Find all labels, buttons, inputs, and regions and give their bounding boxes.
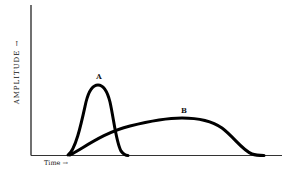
curve-a-label: A (95, 72, 102, 81)
x-axis-label: Time → (44, 159, 68, 167)
amplitude-time-chart: A B AMPLITUDE → Time → (0, 0, 294, 177)
y-axis-label: AMPLITUDE → (13, 40, 21, 106)
curve-b-label: B (181, 106, 187, 115)
curve-b (70, 118, 264, 156)
curve-a (68, 85, 128, 156)
